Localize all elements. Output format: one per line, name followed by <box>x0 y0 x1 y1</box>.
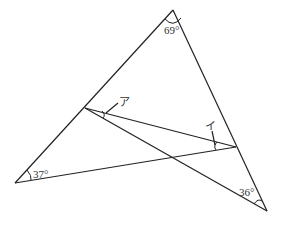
angle-a-arc <box>102 111 104 118</box>
bottom-right-angle-arc <box>254 200 262 204</box>
angle-i-leader <box>212 131 215 145</box>
geometry-diagram: 69° 37° 36° ア イ <box>0 0 283 236</box>
side-ab <box>15 10 173 183</box>
left-angle-arc <box>27 170 31 180</box>
angle-a-label: ア <box>119 96 130 108</box>
bottom-right-angle-label: 36° <box>239 186 254 198</box>
side-ac <box>173 10 267 211</box>
apex-angle-label: 69° <box>164 24 179 36</box>
angle-a-leader <box>106 103 118 113</box>
left-angle-label: 37° <box>33 168 48 180</box>
angle-i-label: イ <box>205 120 216 132</box>
